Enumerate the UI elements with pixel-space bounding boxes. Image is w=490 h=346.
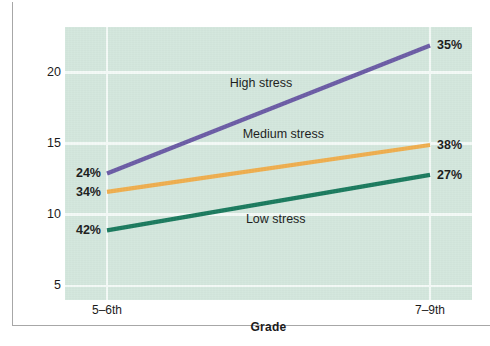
x-axis-tick-labels: 5–6th7–9th (65, 303, 472, 321)
x-tick-label-0: 5–6th (92, 303, 122, 317)
figure-frame-left-rule (12, 2, 13, 326)
series-label-high-stress: High stress (230, 76, 293, 90)
percent-label-low-stress-79th: 27% (437, 168, 462, 182)
y-axis-tick-labels: 5101520 (30, 27, 61, 300)
series-label-medium-stress: Medium stress (243, 127, 324, 141)
y-tick-label-10: 10 (35, 207, 61, 221)
percent-label-medium-stress-56th: 34% (76, 185, 101, 199)
x-axis-title: Grade (65, 320, 472, 334)
y-tick-label-5: 5 (35, 278, 61, 292)
percent-label-medium-stress-79th: 38% (437, 138, 462, 152)
series-layer (65, 27, 472, 300)
series-label-low-stress: Low stress (246, 212, 306, 226)
figure-container: Mean level of negative affect 5101520 Hi… (0, 0, 490, 346)
y-tick-label-20: 20 (35, 65, 61, 79)
x-tick-label-1: 7–9th (415, 303, 445, 317)
plot-area: High stressMedium stressLow stress 24%35… (65, 27, 472, 300)
percent-label-high-stress-79th: 35% (437, 38, 462, 52)
percent-label-high-stress-56th: 24% (76, 166, 101, 180)
percent-label-low-stress-56th: 42% (76, 223, 101, 237)
series-line-high-stress (107, 45, 430, 173)
y-tick-label-15: 15 (35, 136, 61, 150)
